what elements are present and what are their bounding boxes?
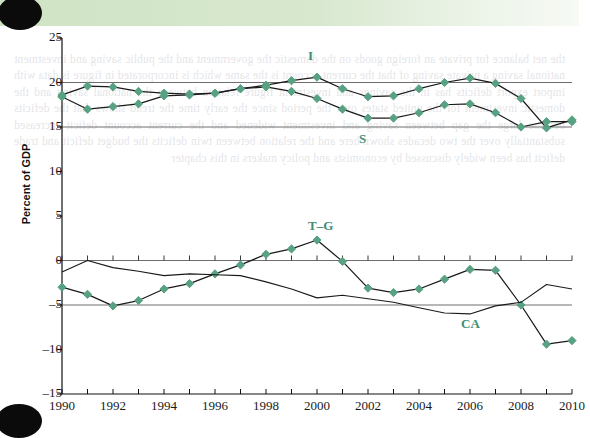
y-tick-label: 10 xyxy=(28,163,62,179)
data-point-marker xyxy=(185,91,193,99)
data-point-marker xyxy=(389,288,397,296)
data-point-marker xyxy=(83,290,91,298)
data-point-marker xyxy=(211,89,219,97)
data-point-marker xyxy=(313,73,321,81)
data-point-marker xyxy=(415,285,423,293)
x-tick-label: 2008 xyxy=(498,398,544,414)
data-point-marker xyxy=(236,85,244,93)
data-point-marker xyxy=(287,245,295,253)
x-tick-label: 1998 xyxy=(243,398,289,414)
data-point-marker xyxy=(491,109,499,117)
y-tick-label: 0 xyxy=(28,252,62,268)
y-tick-label: 15 xyxy=(28,118,62,134)
data-point-marker xyxy=(134,296,142,304)
data-point-marker xyxy=(364,114,372,122)
series-label-CA: CA xyxy=(461,316,480,332)
data-point-marker xyxy=(415,85,423,93)
figure-header-band xyxy=(0,0,579,26)
x-tick-label: 1990 xyxy=(39,398,85,414)
data-point-marker xyxy=(389,92,397,100)
data-point-marker xyxy=(338,85,346,93)
data-point-marker xyxy=(440,78,448,86)
data-point-marker xyxy=(466,265,474,273)
data-point-marker xyxy=(211,270,219,278)
data-point-marker xyxy=(517,123,525,131)
x-axis-ticks: 1990199219941996199820002002200420062008… xyxy=(0,398,579,420)
y-tick-label: –10 xyxy=(28,341,62,357)
series-label-I: I xyxy=(308,48,313,64)
data-point-marker xyxy=(440,275,448,283)
data-point-marker xyxy=(415,109,423,117)
data-point-marker xyxy=(109,83,117,91)
x-tick-label: 2006 xyxy=(447,398,493,414)
x-tick-label: 2010 xyxy=(549,398,590,414)
data-point-marker xyxy=(491,79,499,87)
x-tick-label: 1992 xyxy=(90,398,136,414)
data-point-marker xyxy=(287,87,295,95)
data-point-marker xyxy=(466,100,474,108)
data-point-marker xyxy=(440,101,448,109)
data-point-marker xyxy=(134,87,142,95)
data-point-marker xyxy=(542,340,550,348)
y-tick-label: 25 xyxy=(28,29,62,45)
y-axis-label: Percent of GDP xyxy=(20,134,32,234)
data-point-marker xyxy=(83,105,91,113)
data-point-marker xyxy=(364,93,372,101)
series-label-TG: T–G xyxy=(308,218,333,234)
data-point-marker xyxy=(109,302,117,310)
x-tick-label: 2002 xyxy=(345,398,391,414)
data-point-marker xyxy=(109,102,117,110)
data-point-marker xyxy=(466,74,474,82)
data-point-marker xyxy=(134,100,142,108)
y-tick-label: –5 xyxy=(28,296,62,312)
data-point-marker xyxy=(338,105,346,113)
y-tick-label: 20 xyxy=(28,74,62,90)
data-point-marker xyxy=(287,77,295,85)
data-point-marker xyxy=(236,261,244,269)
data-point-marker xyxy=(262,250,270,258)
data-point-marker xyxy=(83,82,91,90)
data-point-marker xyxy=(389,114,397,122)
x-tick-label: 2004 xyxy=(396,398,442,414)
x-tick-label: 1994 xyxy=(141,398,187,414)
data-point-marker xyxy=(160,285,168,293)
data-point-marker xyxy=(568,337,576,345)
data-point-marker xyxy=(185,280,193,288)
series-label-S: S xyxy=(359,131,366,147)
x-tick-label: 2000 xyxy=(294,398,340,414)
y-tick-label: 5 xyxy=(28,207,62,223)
data-point-marker xyxy=(313,94,321,102)
x-tick-label: 1996 xyxy=(192,398,238,414)
page-marker-dot-bottom xyxy=(0,404,42,438)
